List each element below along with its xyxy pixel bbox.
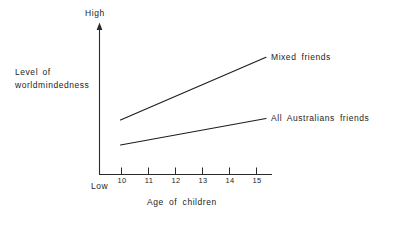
x-axis-title: Age of children: [147, 197, 217, 208]
x-tick-label: 15: [252, 176, 261, 185]
x-tick-label: 14: [225, 176, 234, 185]
x-tick-label: 10: [117, 176, 126, 185]
series-line-all-australians-friends: [121, 118, 267, 145]
x-axis: [99, 168, 272, 175]
chart-figure: High Low Level of worldmindedness Age of…: [0, 0, 403, 225]
y-axis-high-label: High: [85, 8, 105, 19]
y-axis-title-line-1: Level of: [15, 66, 89, 79]
x-tick-label: 13: [198, 176, 207, 185]
y-axis-title-line-2: worldmindedness: [15, 79, 89, 92]
y-axis: [97, 23, 103, 175]
y-axis-title: Level of worldmindedness: [15, 66, 89, 91]
series-label-mixed-friends: Mixed friends: [271, 52, 331, 63]
series-line-mixed-friends: [121, 57, 267, 120]
series-label-all-australians-friends: All Australians friends: [271, 113, 369, 124]
y-axis-low-label: Low: [91, 181, 108, 192]
x-tick-label: 12: [171, 176, 180, 185]
y-axis-arrow-icon: [97, 23, 103, 31]
x-tick-label: 11: [145, 176, 154, 185]
